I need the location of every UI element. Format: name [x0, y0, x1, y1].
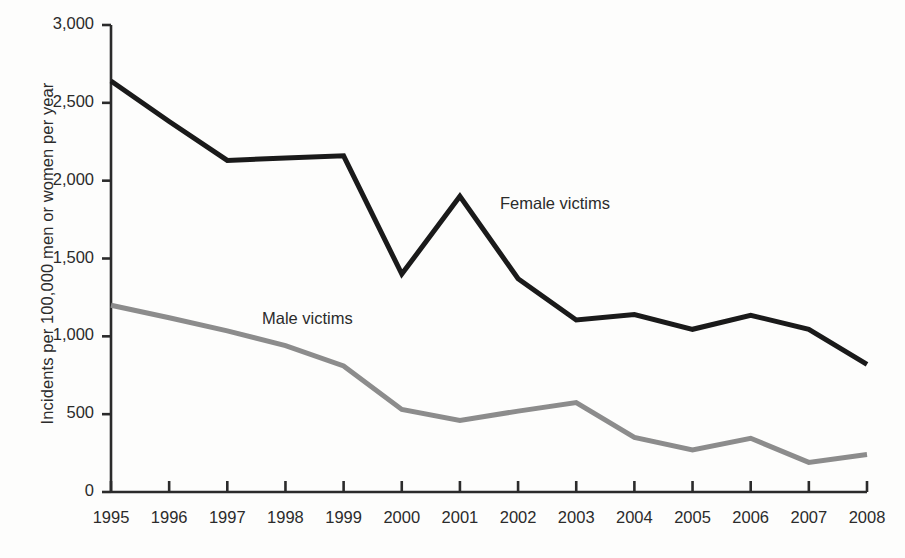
series-label-female: Female victims: [500, 194, 610, 213]
line-chart: Incidents per 100,000 men or women per y…: [0, 0, 905, 558]
series-lines: [111, 81, 867, 462]
x-axis-tick-marks: [111, 481, 867, 492]
y-axis-tick-marks: [102, 25, 111, 492]
series-label-male: Male victims: [262, 309, 353, 328]
plot-area: [0, 0, 905, 558]
axis-lines: [111, 25, 867, 492]
